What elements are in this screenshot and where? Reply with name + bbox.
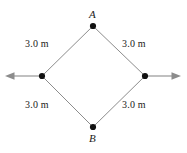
right-arrowhead-icon [172,72,182,79]
vertex-dot-left [39,73,45,79]
vertex-label-a: A [89,9,96,20]
segment-top-left [42,26,93,76]
vertex-dot-a [90,23,96,29]
segment-bottom-left [42,76,93,127]
length-label-top-left: 3.0 m [25,39,49,49]
length-label-bottom-left: 3.0 m [25,100,49,110]
diagram-canvas [0,0,187,153]
length-label-bottom-right: 3.0 m [122,100,146,110]
vertex-dot-b [90,124,96,130]
length-label-top-right: 3.0 m [122,39,146,49]
vertex-dot-right [142,73,148,79]
left-arrowhead-icon [5,72,15,79]
segment-top-right [93,26,145,76]
rhombus-force-diagram: A B 3.0 m 3.0 m 3.0 m 3.0 m [0,0,187,153]
vertex-label-b: B [89,133,96,144]
